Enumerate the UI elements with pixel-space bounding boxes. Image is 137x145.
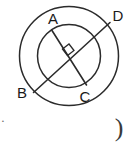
segment-bd bbox=[34, 23, 111, 93]
segment-ac bbox=[52, 31, 87, 86]
vertex-label-a: A bbox=[48, 10, 58, 27]
vertex-label-d: D bbox=[113, 7, 124, 24]
vertex-label-b: B bbox=[17, 84, 27, 101]
geometry-figure: A D B C ) · bbox=[0, 0, 137, 145]
figure-canvas: A D B C ) · bbox=[0, 0, 137, 145]
vertex-label-c: C bbox=[80, 88, 91, 105]
stray-paren-glyph: ) bbox=[115, 113, 124, 142]
stray-tick-mark: · bbox=[1, 113, 5, 128]
